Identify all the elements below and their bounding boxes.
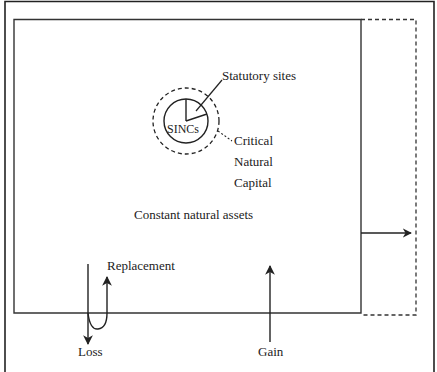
gain-extension-boundary (361, 20, 416, 316)
critical-label: Critical (234, 133, 273, 148)
gain-label: Gain (258, 344, 284, 359)
replacement-label: Replacement (107, 258, 175, 273)
constant-assets-boundary (14, 20, 361, 314)
replacement-arrow (88, 277, 107, 329)
loss-label: Loss (78, 344, 103, 359)
sincs-label: SINCs (167, 122, 199, 136)
capital-label: Capital (234, 175, 272, 190)
outer-frame (5, 2, 434, 372)
cnc-leader (218, 131, 232, 141)
constant-natural-assets-label: Constant natural assets (134, 207, 253, 222)
statutory-sites-label: Statutory sites (222, 68, 296, 83)
natural-label: Natural (234, 154, 273, 169)
natural-assets-diagram: Statutory sites SINCs Critical Natural C… (0, 0, 437, 372)
statutory-sites-leader (196, 80, 222, 111)
